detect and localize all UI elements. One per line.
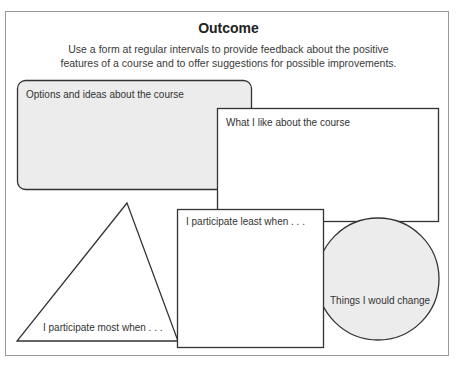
- label-what-i-like: What I like about the course: [226, 117, 350, 128]
- square-participate-least: [178, 210, 324, 348]
- triangle-participate-most: [17, 203, 178, 341]
- shapes-canvas: [0, 0, 457, 366]
- circle-things-to-change: [317, 218, 439, 340]
- label-things-to-change: Things I would change: [330, 295, 430, 306]
- label-participate-least: I participate least when . . .: [186, 216, 305, 227]
- label-participate-most: I participate most when . . .: [43, 322, 163, 333]
- label-options-ideas: Options and ideas about the course: [26, 89, 184, 100]
